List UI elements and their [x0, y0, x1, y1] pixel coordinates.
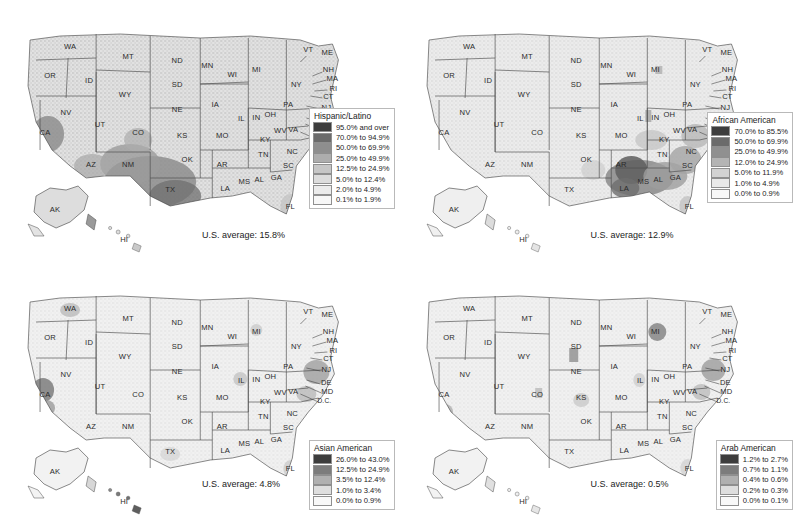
state-label-dc: D.C.	[716, 397, 730, 404]
state-label-nc: NC	[685, 147, 697, 156]
state-label-nm: NM	[122, 160, 134, 169]
state-label-wv: WV	[274, 126, 287, 135]
state-label-ct: CT	[323, 92, 334, 101]
state-label-ny: NY	[291, 80, 302, 89]
state-label-nc: NC	[685, 409, 697, 418]
state-label-in: IN	[651, 113, 659, 122]
state-label-sd: SD	[172, 342, 183, 351]
state-label-id: ID	[85, 76, 93, 85]
state-label-nc: NC	[287, 147, 299, 156]
legend-swatch	[313, 496, 332, 506]
state-label-pa: PA	[682, 362, 693, 371]
legend-label: 70.0% to 85.5%	[734, 127, 788, 136]
state-label-ky: KY	[659, 397, 670, 406]
legend-swatch	[313, 153, 332, 163]
state-label-pa: PA	[283, 362, 294, 371]
legend-swatch	[711, 126, 730, 136]
state-label-me: ME	[322, 48, 334, 57]
state-label-wa: WA	[64, 304, 77, 313]
state-label-vt: VT	[702, 45, 712, 54]
state-label-co: CO	[531, 390, 543, 399]
state-label-in: IN	[252, 375, 260, 384]
legend-swatch	[313, 164, 332, 174]
us-average-african-american: U.S. average: 12.9%	[591, 230, 674, 240]
state-label-id: ID	[85, 338, 93, 347]
state-label-nh: NH	[323, 327, 334, 336]
legend-label: 50.0% to 69.9%	[734, 137, 788, 146]
legend-swatch	[313, 195, 332, 205]
legend-row: 5.0% to 12.4%	[313, 174, 390, 184]
state-label-wa: WA	[462, 42, 475, 51]
state-label-nh: NH	[721, 65, 732, 74]
legend-row: 50.0% to 69.9%	[711, 136, 788, 146]
state-label-or: OR	[44, 333, 56, 342]
state-label-mt: MT	[521, 314, 533, 323]
state-label-ak: AK	[50, 467, 61, 476]
legend-label: 3.5% to 12.4%	[336, 475, 385, 484]
state-label-me: ME	[720, 48, 732, 57]
state-label-ct: CT	[722, 354, 733, 363]
legend-swatch	[313, 133, 332, 143]
legend-label: 1.0% to 3.4%	[336, 486, 381, 495]
legend-rows: 26.0% to 43.0%12.5% to 24.9%3.5% to 12.4…	[313, 454, 390, 506]
legend-label: 0.0% to 0.9%	[734, 189, 779, 198]
state-label-wy: WY	[119, 352, 132, 361]
state-label-mi: MI	[252, 65, 261, 74]
state-label-pa: PA	[283, 100, 294, 109]
state-label-me: ME	[322, 310, 334, 319]
state-label-mt: MT	[521, 52, 533, 61]
legend-label: 1.0% to 4.9%	[734, 179, 779, 188]
state-label-mo: MO	[614, 393, 627, 402]
state-label-wy: WY	[517, 352, 530, 361]
state-label-me: ME	[720, 310, 732, 319]
state-label-nv: NV	[459, 108, 471, 117]
state-label-wa: WA	[462, 304, 475, 313]
state-label-fl: FL	[684, 202, 693, 211]
state-label-ak: AK	[448, 205, 459, 214]
state-label-ks: KS	[177, 131, 188, 140]
legend-label: 26.0% to 43.0%	[336, 455, 390, 464]
state-label-ms: MS	[637, 439, 649, 448]
state-label-ia: IA	[610, 100, 618, 109]
state-label-al: AL	[254, 175, 264, 184]
state-label-ok: OK	[182, 417, 193, 426]
state-label-hi: HI	[519, 497, 527, 506]
state-label-ga: GA	[271, 435, 283, 444]
legend-swatch	[711, 137, 730, 147]
legend-row: 25.0% to 49.9%	[711, 147, 788, 157]
us-average-arab-american: U.S. average: 0.5%	[591, 479, 669, 489]
state-label-sc: SC	[283, 161, 294, 170]
state-label-il: IL	[636, 376, 643, 385]
state-label-wv: WV	[274, 388, 287, 397]
state-label-vt: VT	[303, 307, 313, 316]
state-label-sd: SD	[570, 342, 581, 351]
legend-row: 1.2% to 2.7%	[720, 454, 788, 464]
legend-rows: 1.2% to 2.7%0.7% to 1.1%0.4% to 0.6%0.2%…	[720, 454, 788, 506]
legend-swatch	[313, 454, 332, 464]
legend-swatch	[711, 178, 730, 188]
state-label-ga: GA	[669, 435, 681, 444]
state-label-va: VA	[687, 387, 698, 396]
state-label-mn: MN	[201, 323, 213, 332]
state-label-mi: MI	[650, 327, 659, 336]
state-label-nc: NC	[287, 409, 299, 418]
state-label-mi: MI	[252, 327, 261, 336]
legend-rows: 70.0% to 85.5%50.0% to 69.9%25.0% to 49.…	[711, 126, 788, 199]
state-label-sd: SD	[172, 80, 183, 89]
state-label-nd: ND	[172, 56, 184, 65]
legend-title: African American	[712, 115, 788, 125]
legend-row: 0.4% to 0.6%	[720, 475, 788, 485]
state-label-co: CO	[132, 128, 144, 137]
state-label-hi: HI	[519, 235, 527, 244]
state-label-wy: WY	[119, 90, 132, 99]
state-label-sd: SD	[570, 80, 581, 89]
state-label-nj: NJ	[322, 365, 332, 374]
legend-swatch	[313, 174, 332, 184]
legend-swatch	[711, 157, 730, 167]
legend-label: 0.7% to 1.1%	[743, 465, 788, 474]
map-panel-african-american: WAORIDMTNDSDWYNVUTCACONEKSAZNMOKTXMNIAMO…	[399, 0, 797, 262]
state-label-va: VA	[288, 387, 299, 396]
state-label-il: IL	[238, 114, 245, 123]
state-label-tx: TX	[165, 447, 175, 456]
state-label-mt: MT	[122, 52, 134, 61]
